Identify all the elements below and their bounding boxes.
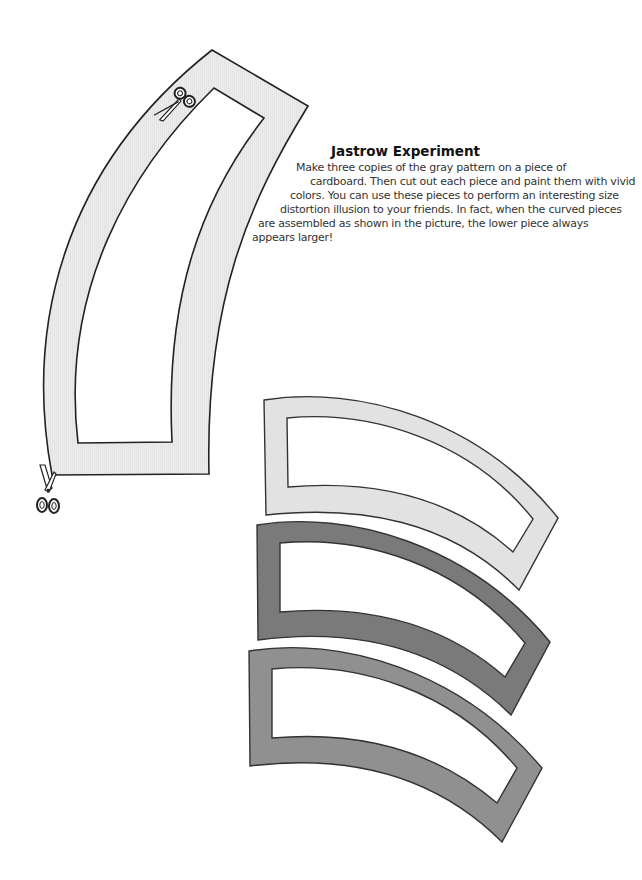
- body-text-line: cardboard. Then cut out each piece and p…: [310, 175, 635, 188]
- body-text-line: are assembled as shown in the picture, t…: [258, 217, 588, 230]
- illustration: [0, 0, 642, 880]
- body-text-line: distortion illusion to your friends. In …: [280, 203, 622, 216]
- body-text-line: colors. You can use these pieces to perf…: [290, 189, 619, 202]
- body-text-line: Make three copies of the gray pattern on…: [296, 161, 566, 174]
- heading: Jastrow Experiment: [331, 143, 480, 159]
- body-text-line: appears larger!: [252, 231, 333, 244]
